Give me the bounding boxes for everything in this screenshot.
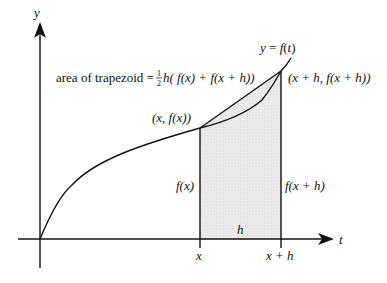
height-right-label: f(x + h) bbox=[285, 178, 325, 193]
trapezoid-diagram: y t y = f(t) area of trapezoid = 1 2 h( … bbox=[0, 0, 387, 283]
tick-x-plus-h-label: x + h bbox=[265, 248, 294, 263]
formula-body: h( f(x) + f(x + h)) bbox=[163, 70, 255, 85]
shaded-region bbox=[200, 71, 281, 239]
tick-x-label: x bbox=[195, 248, 202, 263]
formula-frac-num: 1 bbox=[157, 69, 161, 78]
formula-frac-den: 2 bbox=[157, 79, 161, 88]
height-left-label: f(x) bbox=[176, 178, 194, 193]
y-axis-label: y bbox=[32, 5, 40, 20]
formula-prefix: area of trapezoid = bbox=[56, 70, 154, 85]
area-formula: area of trapezoid = 1 2 h( f(x) + f(x + … bbox=[56, 69, 255, 88]
point-right-label: (x + h, f(x + h)) bbox=[288, 70, 371, 85]
point-left-label: (x, f(x)) bbox=[152, 110, 191, 125]
width-h-label: h bbox=[237, 222, 244, 237]
curve-label: y = f(t) bbox=[258, 40, 296, 55]
t-axis-label: t bbox=[339, 232, 343, 247]
